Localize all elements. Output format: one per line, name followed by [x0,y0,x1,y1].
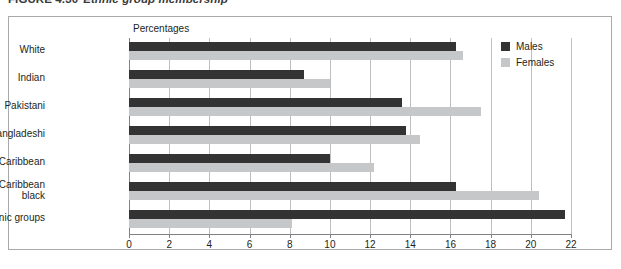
category-label: Pakistani [0,100,45,111]
category-label: Other ethnic groups [0,212,45,223]
tick-mark-0 [129,234,130,238]
tick-label-0: 0 [126,239,132,250]
tick-label-6: 6 [247,239,253,250]
tick-label-10: 10 [324,239,335,250]
category-label: Non-Caribbean black [0,179,45,201]
tick-label-14: 14 [405,239,416,250]
tick-mark-8 [290,234,291,238]
tick-mark-4 [209,234,210,238]
category-row: White [9,38,611,66]
bar-females [129,219,292,228]
tick-mark-10 [330,234,331,238]
x-axis-unit-label: Percentages [133,23,189,34]
category-label: Bangladeshi [0,128,45,139]
category-row: Indian [9,66,611,94]
bar-females [129,51,463,60]
tick-label-16: 16 [445,239,456,250]
category-label: Black Caribbean [0,156,45,167]
bar-males [129,126,406,135]
bar-females [129,107,481,116]
bar-females [129,163,374,172]
tick-label-20: 20 [525,239,536,250]
tick-mark-6 [250,234,251,238]
category-row: Pakistani [9,94,611,122]
tick-label-18: 18 [485,239,496,250]
bar-males [129,210,565,219]
tick-mark-2 [169,234,170,238]
bar-females [129,191,539,200]
bar-males [129,98,402,107]
tick-mark-20 [531,234,532,238]
category-row: Other ethnic groups [9,206,611,234]
bar-males [129,42,456,51]
bar-females [129,135,420,144]
tick-mark-12 [370,234,371,238]
category-row: Non-Caribbean black [9,178,611,206]
tick-mark-14 [410,234,411,238]
bar-males [129,182,456,191]
tick-mark-22 [571,234,572,238]
category-label: White [0,44,45,55]
tick-label-2: 2 [166,239,172,250]
chart-panel: Percentages 0246810121416182022 MalesFem… [8,16,612,250]
category-row: Bangladeshi [9,122,611,150]
category-label: Indian [0,72,45,83]
tick-label-22: 22 [565,239,576,250]
tick-mark-16 [450,234,451,238]
bar-females [129,79,330,88]
bar-males [129,70,304,79]
tick-mark-18 [491,234,492,238]
figure-caption: FIGURE 4.30Ethnic group membership [8,0,228,7]
figure-title: Ethnic group membership [83,0,228,5]
figure-number: FIGURE 4.30 [8,0,78,5]
x-axis-line [129,234,572,235]
tick-label-8: 8 [287,239,293,250]
tick-label-4: 4 [207,239,213,250]
category-row: Black Caribbean [9,150,611,178]
tick-label-12: 12 [365,239,376,250]
bar-males [129,154,330,163]
